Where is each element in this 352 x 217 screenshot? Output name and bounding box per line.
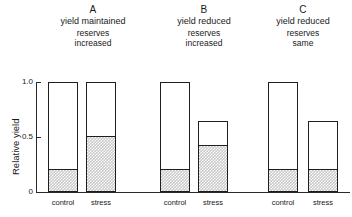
y-axis-tick <box>37 82 41 83</box>
y-axis-tick <box>37 192 41 193</box>
y-axis-tick <box>37 137 41 138</box>
bar-c-stress <box>308 121 338 193</box>
bar-a-stress <box>86 82 116 192</box>
bar-reserves-fill <box>309 169 337 191</box>
plot-area: Relative yield 00.51.0controlstresscontr… <box>0 0 352 217</box>
x-axis-label-stress: stress <box>189 198 237 207</box>
bar-reserves-fill <box>87 136 115 191</box>
bar-reserves-fill <box>161 169 189 191</box>
bar-reserves-fill <box>269 169 297 191</box>
x-axis-baseline <box>36 192 350 193</box>
bar-a-control <box>48 82 78 192</box>
bar-reserves-fill <box>199 145 227 191</box>
bar-b-control <box>160 82 190 192</box>
x-axis-label-stress: stress <box>299 198 347 207</box>
figure-container: A yield maintained reserves increased B … <box>0 0 352 217</box>
y-axis-tick-label: 0.5 <box>2 132 33 141</box>
bar-reserves-fill <box>49 169 77 191</box>
bar-b-stress <box>198 121 228 193</box>
y-axis-title: Relative yield <box>10 119 21 176</box>
y-axis-tick-label: 0 <box>2 187 33 196</box>
x-axis-label-stress: stress <box>77 198 125 207</box>
bar-c-control <box>268 82 298 192</box>
y-axis-tick-label: 1.0 <box>2 77 33 86</box>
